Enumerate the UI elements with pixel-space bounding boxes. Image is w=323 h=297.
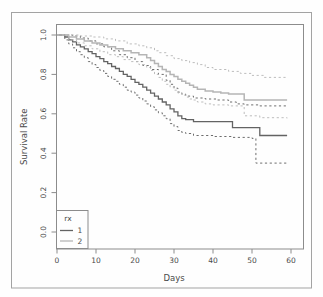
y-axis-title: Survival Rate — [19, 109, 29, 165]
legend-box — [57, 211, 89, 249]
y-tick-label: 0.2 — [39, 186, 48, 198]
x-tick-label: 10 — [91, 256, 101, 265]
x-axis-title: Days — [163, 273, 185, 283]
x-tick-label: 0 — [55, 256, 60, 265]
x-tick-label: 50 — [247, 256, 257, 265]
legend-label-rx2: 2 — [78, 237, 83, 246]
y-tick-label: 0.4 — [39, 147, 48, 159]
y-tick-label: 0.6 — [39, 108, 48, 120]
x-tick-label: 60 — [286, 256, 296, 265]
y-tick-label: 1.0 — [39, 29, 48, 41]
x-tick-label: 30 — [169, 256, 179, 265]
y-tick-label: 0.8 — [39, 68, 48, 80]
survival-plot-canvas: 0.00.20.40.60.81.00102030405060Survival … — [0, 0, 323, 297]
legend-label-rx1: 1 — [78, 226, 83, 235]
y-tick-label: 0.0 — [39, 226, 48, 238]
x-tick-label: 20 — [130, 256, 140, 265]
x-tick-label: 40 — [208, 256, 218, 265]
figure-background — [1, 1, 323, 297]
survival-plot-figure: 0.00.20.40.60.81.00102030405060Survival … — [0, 0, 323, 297]
legend-title: rx — [64, 214, 72, 223]
